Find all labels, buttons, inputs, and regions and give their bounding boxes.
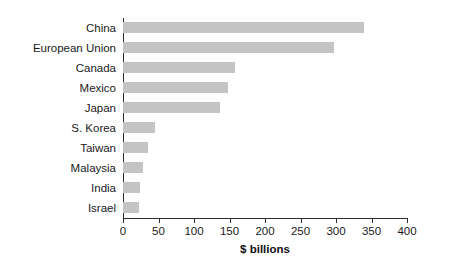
x-tick-label: 0 [120, 225, 126, 238]
plot-area: ChinaEuropean UnionCanadaMexicoJapanS. K… [123, 18, 407, 218]
x-tick [159, 218, 160, 223]
x-tick-label: 50 [152, 225, 165, 238]
x-tick [407, 218, 408, 223]
bar-row: Canada [123, 58, 407, 78]
bar [123, 22, 364, 33]
x-tick-label: 250 [291, 225, 310, 238]
bar [123, 182, 140, 193]
bar [123, 42, 334, 53]
x-tick-label: 400 [397, 225, 416, 238]
x-tick-label: 150 [220, 225, 239, 238]
x-axis-title: $ billions [123, 243, 407, 255]
bar [123, 122, 155, 133]
x-tick-label: 200 [255, 225, 274, 238]
category-label: India [91, 178, 116, 198]
bar [123, 102, 220, 113]
bar-row: S. Korea [123, 118, 407, 138]
bar-row: Mexico [123, 78, 407, 98]
x-tick [265, 218, 266, 223]
bar [123, 142, 148, 153]
category-label: Mexico [80, 78, 116, 98]
bar-series: ChinaEuropean UnionCanadaMexicoJapanS. K… [123, 18, 407, 218]
bar [123, 162, 143, 173]
x-tick-label: 350 [362, 225, 381, 238]
bar-row: Israel [123, 198, 407, 218]
bar-row: Taiwan [123, 138, 407, 158]
bar [123, 82, 228, 93]
category-label: Canada [76, 58, 116, 78]
category-label: Taiwan [80, 138, 116, 158]
x-tick [336, 218, 337, 223]
bar [123, 62, 235, 73]
bar-row: European Union [123, 38, 407, 58]
category-label: S. Korea [71, 118, 116, 138]
bar-row: Japan [123, 98, 407, 118]
category-label: Malaysia [71, 158, 116, 178]
x-tick-label: 100 [184, 225, 203, 238]
x-tick [194, 218, 195, 223]
x-tick [123, 218, 124, 223]
x-tick [230, 218, 231, 223]
category-label: European Union [33, 38, 116, 58]
bar-row: China [123, 18, 407, 38]
x-tick-label: 300 [326, 225, 345, 238]
category-label: China [86, 18, 116, 38]
x-tick [372, 218, 373, 223]
bar-row: Malaysia [123, 158, 407, 178]
x-tick [301, 218, 302, 223]
category-label: Japan [85, 98, 116, 118]
bar [123, 202, 139, 213]
category-label: Israel [88, 198, 116, 218]
bar-row: India [123, 178, 407, 198]
bar-chart: ChinaEuropean UnionCanadaMexicoJapanS. K… [0, 0, 462, 265]
